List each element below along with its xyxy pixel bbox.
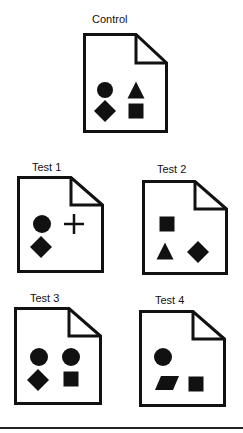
page-outline — [16, 309, 101, 404]
test-1-label: Test 1 — [32, 161, 61, 173]
page-outline — [85, 35, 167, 132]
control-document-icon — [83, 33, 168, 133]
circle-shape-icon — [33, 215, 51, 233]
control-label: Control — [92, 13, 127, 25]
page-outline — [144, 182, 227, 274]
circle-shape-icon — [97, 82, 113, 98]
square-shape-icon — [189, 377, 204, 392]
test-1-document-icon — [17, 176, 104, 273]
test-4-document-icon — [139, 310, 226, 407]
circle-shape-icon — [30, 348, 48, 366]
test-2-document-icon — [142, 180, 228, 275]
page-outline — [141, 312, 225, 406]
test-4-label: Test 4 — [155, 294, 184, 306]
test-3-label: Test 3 — [30, 292, 59, 304]
square-shape-icon — [160, 217, 175, 232]
square-shape-icon — [64, 372, 79, 387]
bottom-divider — [0, 427, 243, 429]
square-shape-icon — [129, 104, 144, 119]
test-3-document-icon — [14, 307, 102, 405]
circle-shape-icon — [154, 348, 172, 366]
page-outline — [19, 178, 103, 272]
circle-shape-icon — [62, 348, 80, 366]
test-2-label: Test 2 — [157, 163, 186, 175]
